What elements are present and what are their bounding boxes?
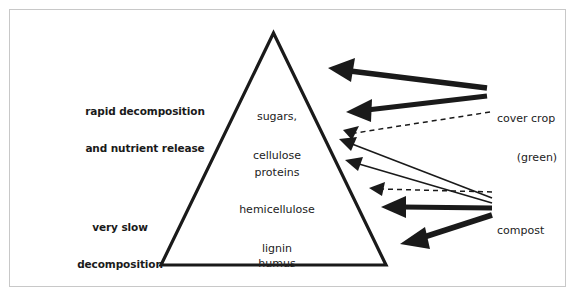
- pyramid-layer-sugars-line1: sugars,: [212, 111, 342, 124]
- arrow-compost-to-proteins-lower: [345, 157, 492, 203]
- source-label-compost: compost: [497, 199, 577, 264]
- label-very-slow-decomposition-line1: very slow: [40, 221, 200, 233]
- pyramid-layer-humus: humus: [212, 232, 342, 297]
- source-label-compost-line1: compost: [497, 225, 577, 238]
- arrow-compost-to-hemicellulose: [381, 196, 492, 218]
- arrow-compost-to-proteins-upper: [339, 137, 492, 198]
- arrow-covercrop-to-sugars: [328, 58, 487, 88]
- label-rapid-decomposition: rapid decomposition and nutrient release: [60, 80, 230, 179]
- arrow-covercrop-to-sugars-lower: [346, 96, 487, 122]
- label-rapid-decomposition-line2: and nutrient release: [60, 142, 230, 154]
- source-label-cover-crop: cover crop (green): [497, 87, 577, 191]
- diagram-page: rapid decomposition and nutrient release…: [0, 0, 577, 298]
- arrow-covercrop-dashed-to-hemicellulose: [369, 182, 492, 196]
- label-rapid-decomposition-line1: rapid decomposition: [60, 105, 230, 117]
- source-label-cover-crop-line1: cover crop: [497, 113, 577, 126]
- label-very-slow-decomposition-line2: decomposition: [40, 258, 200, 270]
- pyramid-layer-humus-line1: humus: [212, 258, 342, 271]
- arrow-compost-to-humus: [400, 215, 492, 249]
- source-label-cover-crop-line2: (green): [497, 152, 577, 165]
- pyramid-layer-hemicellulose-line1: hemicellulose: [202, 204, 352, 217]
- label-very-slow-decomposition: very slow decomposition: [40, 196, 200, 295]
